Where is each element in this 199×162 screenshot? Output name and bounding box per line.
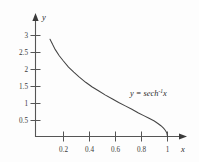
y-tick-label: 2.5	[19, 49, 28, 57]
equation-main: y = sech	[129, 89, 158, 98]
equation-annotation: y = sech-1x	[129, 88, 167, 98]
y-tick-label: 0.5	[19, 117, 28, 125]
y-tick-label: 1	[24, 100, 28, 108]
equation-tail: x	[162, 89, 167, 98]
x-tick-label: 0.6	[111, 146, 120, 154]
x-tick-label: 0.4	[85, 146, 94, 154]
x-tick-label: 0.2	[59, 146, 68, 154]
chart-figure: 0.5 1 1.5 2 2.5 3 0.2 0.4 0.6 0.8 1 y x …	[0, 0, 199, 162]
arrow-right-icon	[179, 133, 187, 139]
arrow-up-icon	[32, 13, 38, 21]
data-curve	[50, 39, 167, 136]
y-tick-label: 3	[24, 32, 28, 40]
y-tick-label: 2	[24, 66, 28, 74]
x-tick-label: 1	[166, 146, 170, 154]
x-axis-label: x	[180, 144, 185, 154]
y-axis-label: y	[41, 12, 46, 22]
x-tick-label: 0.8	[137, 146, 146, 154]
y-tick-label: 1.5	[19, 83, 28, 91]
plot-area: 0.5 1 1.5 2 2.5 3 0.2 0.4 0.6 0.8 1 y x …	[0, 0, 199, 162]
